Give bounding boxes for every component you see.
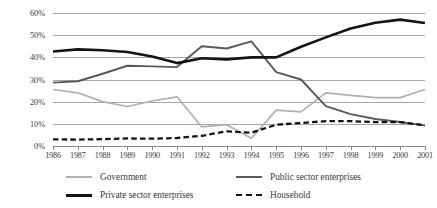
x-tick — [127, 146, 128, 150]
x-tick-label: 2000 — [392, 151, 408, 160]
x-axis-labels: 1986198719881989199019911992199319941995… — [53, 151, 425, 165]
legend-swatch-icon — [66, 194, 92, 197]
y-tick-label: 0% — [34, 142, 45, 151]
x-tick-label: 1990 — [144, 151, 160, 160]
legend-item-private-sector-enterprises: Private sector enterprises — [66, 190, 193, 200]
x-tick — [103, 146, 104, 150]
legend-swatch-icon — [236, 194, 262, 196]
x-tick — [152, 146, 153, 150]
x-tick-label: 1987 — [70, 151, 86, 160]
y-tick-label: 30% — [30, 75, 45, 84]
x-tick-label: 1988 — [95, 151, 111, 160]
x-tick-label: 2001 — [417, 151, 433, 160]
x-tick — [425, 146, 426, 150]
plot-area — [53, 13, 425, 146]
series-line — [53, 121, 425, 139]
x-tick — [276, 146, 277, 150]
legend-item-public-sector-enterprises: Public sector enterprises — [236, 172, 361, 182]
x-tick-label: 1996 — [293, 151, 309, 160]
legend-label: Household — [270, 190, 310, 200]
x-tick-label: 1992 — [194, 151, 210, 160]
legend-item-household: Household — [236, 190, 310, 200]
series-line — [53, 20, 425, 63]
y-tick-label: 60% — [30, 9, 45, 18]
y-axis-labels: 60% 50% 40% 30% 20% 10% 0% — [0, 13, 48, 146]
x-tick — [301, 146, 302, 150]
legend-swatch-icon — [236, 176, 262, 178]
y-tick-label: 50% — [30, 31, 45, 40]
y-tick-label: 10% — [30, 119, 45, 128]
x-tick-label: 1999 — [368, 151, 384, 160]
series-line — [53, 41, 425, 125]
y-tick-label: 20% — [30, 97, 45, 106]
legend-label: Public sector enterprises — [270, 172, 361, 182]
x-tick — [78, 146, 79, 150]
chart-legend: Government Public sector enterprises Pri… — [0, 170, 437, 208]
x-tick-label: 1995 — [268, 151, 284, 160]
x-tick — [251, 146, 252, 150]
x-tick — [375, 146, 376, 150]
x-tick-label: 1997 — [318, 151, 334, 160]
x-tick — [177, 146, 178, 150]
x-tick-label: 1994 — [244, 151, 260, 160]
x-tick-label: 1998 — [343, 151, 359, 160]
legend-label: Government — [100, 172, 146, 182]
x-tick — [400, 146, 401, 150]
x-tick — [227, 146, 228, 150]
x-tick — [326, 146, 327, 150]
y-tick-label: 40% — [30, 53, 45, 62]
x-tick-label: 1986 — [45, 151, 61, 160]
x-tick-label: 1991 — [169, 151, 185, 160]
legend-swatch-icon — [66, 176, 92, 178]
x-tick-label: 1989 — [120, 151, 136, 160]
x-tick-label: 1993 — [219, 151, 235, 160]
line-chart: 60% 50% 40% 30% 20% 10% 0% 1986198719881… — [0, 0, 437, 208]
x-tick — [202, 146, 203, 150]
series-container — [53, 13, 425, 146]
legend-item-government: Government — [66, 172, 146, 182]
x-tick — [351, 146, 352, 150]
x-tick — [53, 146, 54, 150]
legend-label: Private sector enterprises — [100, 190, 193, 200]
